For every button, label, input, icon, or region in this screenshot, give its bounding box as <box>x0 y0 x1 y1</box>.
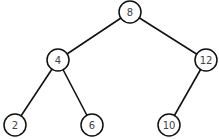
tree-svg: 84122610 <box>0 0 219 139</box>
tree-node-8: 8 <box>119 1 141 23</box>
tree-node-2: 2 <box>4 114 26 136</box>
nodes: 84122610 <box>4 1 217 136</box>
tree-node-6: 6 <box>81 114 103 136</box>
node-label: 4 <box>55 55 61 66</box>
node-label: 6 <box>89 120 95 131</box>
tree-node-10: 10 <box>158 114 180 136</box>
edges <box>15 12 206 125</box>
node-label: 8 <box>127 7 133 18</box>
node-label: 12 <box>200 55 213 66</box>
edge-n8-n4 <box>58 12 130 60</box>
node-label: 2 <box>12 120 18 131</box>
edge-n8-n12 <box>130 12 206 60</box>
node-label: 10 <box>163 120 176 131</box>
tree-node-4: 4 <box>47 49 69 71</box>
tree-diagram: 84122610 <box>0 0 219 139</box>
tree-node-12: 12 <box>195 49 217 71</box>
